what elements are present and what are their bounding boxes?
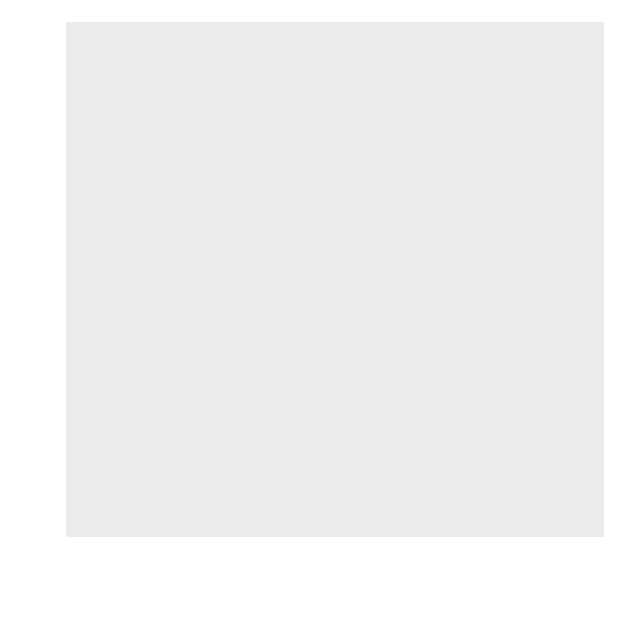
scatter-plot-figure — [0, 0, 634, 639]
plot-panel — [66, 22, 604, 537]
fit-lines-layer — [66, 22, 604, 537]
